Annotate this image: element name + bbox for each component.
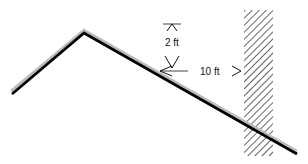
horizontal-dimension-label: 10 ft <box>200 66 220 77</box>
up-arrow-icon <box>167 24 177 31</box>
vertical-dimension-label: 2 ft <box>165 37 179 48</box>
right-arrow-icon <box>232 66 241 76</box>
roof-diagram: 2 ft 10 ft <box>0 0 308 164</box>
vertical-dimension: 2 ft <box>163 24 181 68</box>
